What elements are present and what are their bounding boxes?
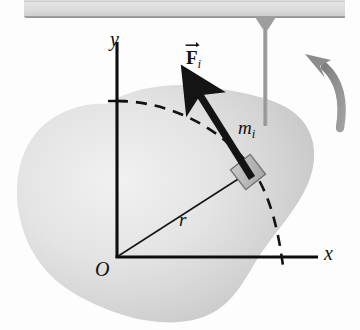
- origin-label: O: [95, 259, 109, 279]
- support-bar: [24, 0, 345, 18]
- mass-subscript: i: [252, 126, 256, 141]
- physics-figure: y x O r mi Fi: [0, 0, 360, 330]
- mass-element-label: mi: [238, 118, 255, 141]
- radius-label: r: [179, 210, 186, 229]
- force-subscript: i: [198, 56, 202, 71]
- force-vector-symbol-group: F: [186, 48, 198, 67]
- force-vector-label: Fi: [186, 48, 201, 71]
- x-axis-label: x: [324, 243, 333, 263]
- figure-canvas: [0, 0, 360, 330]
- y-axis-label: y: [110, 29, 119, 49]
- force-symbol: F: [186, 47, 198, 68]
- rotation-direction-arrow: [305, 54, 342, 128]
- mass-symbol: m: [238, 117, 252, 138]
